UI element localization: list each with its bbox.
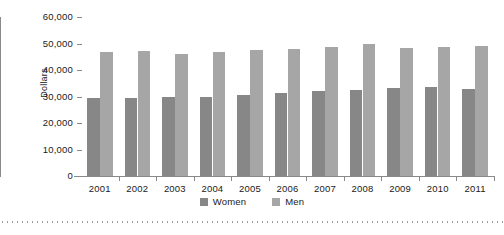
legend-label-men: Men: [285, 196, 304, 207]
x-tick-label-2002: 2002: [119, 183, 157, 194]
x-tick-label-2001: 2001: [81, 183, 119, 194]
bar-men-2003: [175, 54, 188, 176]
y-tick-label: 50,000: [43, 38, 73, 49]
men-swatch-icon: [272, 198, 280, 206]
legend-item-men[interactable]: Men: [272, 196, 304, 207]
x-tick-mark: [494, 176, 495, 181]
bar-men-2007: [325, 47, 338, 176]
x-tick-label-2011: 2011: [456, 183, 494, 194]
bar-women-2011: [462, 89, 475, 176]
x-tick-label-2008: 2008: [344, 183, 382, 194]
legend-item-women[interactable]: Women: [200, 196, 247, 207]
x-tick-label-2010: 2010: [419, 183, 457, 194]
y-tick-label: 30,000: [43, 91, 73, 102]
bar-women-2010: [425, 87, 438, 176]
y-axis-line: [0, 17, 1, 177]
x-tick-mark: [156, 176, 157, 181]
x-tick-label-2006: 2006: [269, 183, 307, 194]
bar-men-2008: [363, 44, 376, 176]
bar-men-2005: [250, 50, 263, 176]
x-axis-line: [74, 176, 494, 177]
y-tick-label: 0: [68, 170, 73, 181]
chart-legend: Women Men: [0, 196, 504, 207]
bar-men-2006: [288, 49, 301, 176]
bar-women-2005: [237, 95, 250, 176]
bar-men-2011: [475, 46, 488, 176]
bar-men-2002: [138, 51, 151, 176]
bar-men-2009: [400, 48, 413, 176]
y-tick-mark: [77, 97, 82, 98]
bar-women-2001: [87, 98, 100, 176]
bar-women-2002: [125, 98, 138, 176]
x-tick-mark: [194, 176, 195, 181]
y-tick-mark: [77, 70, 82, 71]
y-axis-title: Dollars: [39, 53, 49, 113]
x-tick-label-2007: 2007: [306, 183, 344, 194]
x-tick-mark: [456, 176, 457, 181]
bar-women-2004: [200, 97, 213, 177]
bar-women-2007: [312, 91, 325, 176]
bar-men-2001: [100, 52, 113, 176]
bottom-dotted-divider: [0, 221, 504, 223]
bar-chart: Dollars 010,00020,00030,00040,00050,0006…: [0, 0, 504, 235]
y-tick-mark: [77, 150, 82, 151]
y-tick-label: 40,000: [43, 64, 73, 75]
x-tick-label-2009: 2009: [381, 183, 419, 194]
x-tick-label-2004: 2004: [194, 183, 232, 194]
x-tick-mark: [419, 176, 420, 181]
y-tick-mark: [77, 123, 82, 124]
bar-men-2010: [438, 47, 451, 176]
y-tick-mark: [77, 176, 82, 177]
x-tick-mark: [344, 176, 345, 181]
x-tick-mark: [306, 176, 307, 181]
y-tick-label: 10,000: [43, 144, 73, 155]
x-tick-label-2005: 2005: [231, 183, 269, 194]
x-tick-label-2003: 2003: [156, 183, 194, 194]
legend-label-women: Women: [213, 196, 247, 207]
bar-men-2004: [213, 52, 226, 176]
bar-women-2008: [350, 90, 363, 176]
y-tick-mark: [77, 44, 82, 45]
bar-women-2009: [387, 88, 400, 176]
y-tick-label: 20,000: [43, 117, 73, 128]
x-tick-mark: [119, 176, 120, 181]
bar-women-2003: [162, 97, 175, 176]
x-tick-mark: [381, 176, 382, 181]
women-swatch-icon: [200, 198, 208, 206]
x-tick-mark: [269, 176, 270, 181]
bar-women-2006: [275, 93, 288, 176]
x-tick-mark: [231, 176, 232, 181]
y-tick-label: 60,000: [43, 11, 73, 22]
y-tick-mark: [77, 17, 82, 18]
